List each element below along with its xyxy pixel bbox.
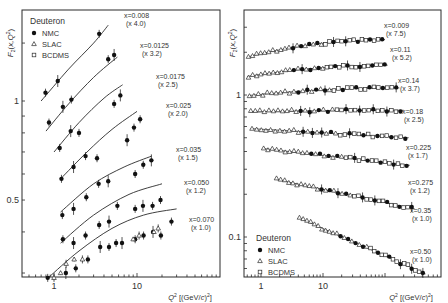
slac-point <box>296 66 301 70</box>
bcdms-point <box>372 85 376 89</box>
slac-point <box>297 215 302 219</box>
nmc-point <box>106 57 110 61</box>
nmc-point <box>112 102 116 106</box>
bcdms-point <box>328 40 332 44</box>
bcdms-point <box>363 88 367 92</box>
series-scale-factor: (x 2.5) <box>158 81 178 89</box>
series-label: x=0.008 <box>124 12 149 19</box>
nmc-point <box>83 154 87 158</box>
nmc-point <box>112 53 116 57</box>
bcdms-point <box>417 270 421 274</box>
bcdms-point <box>366 64 370 68</box>
bcdms-point <box>348 38 352 42</box>
nmc-point <box>385 200 389 204</box>
bcdms-point <box>396 162 400 166</box>
bcdms-point <box>365 198 369 202</box>
bcdms-point <box>362 65 366 69</box>
nmc-point <box>301 130 305 134</box>
slac-point <box>309 89 314 93</box>
bcdms-point <box>385 134 389 138</box>
nmc-point <box>371 107 375 111</box>
nmc-point <box>60 213 64 217</box>
bcdms-point <box>340 108 344 112</box>
slac-point <box>311 184 316 188</box>
nmc-point <box>398 262 402 266</box>
nmc-point <box>335 154 339 158</box>
series-x=0.225 <box>250 126 409 141</box>
nmc-point <box>409 267 413 271</box>
nmc-point <box>32 31 36 35</box>
nmc-point <box>382 62 386 66</box>
series-label: x=0.275 <box>408 179 433 186</box>
bcdms-point <box>357 194 361 198</box>
x-axis-label: Q2 [(GeV/c)2] <box>389 292 433 302</box>
figure: 11010.5Q2 [(GeV/c)2]F2(x,Q2)x=0.008(x 4.… <box>0 0 448 303</box>
slac-point <box>265 90 270 94</box>
nmc-point <box>74 266 78 270</box>
slac-point <box>267 108 272 112</box>
bcdms-point <box>344 156 348 160</box>
series-label: x=0.0125 <box>140 42 169 49</box>
nmc-point <box>343 39 347 43</box>
slac-point <box>287 128 292 132</box>
bcdms-point <box>367 108 371 112</box>
bcdms-point <box>352 132 356 136</box>
bcdms-point <box>343 133 347 137</box>
nmc-point <box>47 120 51 124</box>
slac-point <box>80 257 85 261</box>
nmc-point <box>96 182 100 186</box>
slac-point <box>331 155 336 159</box>
slac-point <box>333 131 338 135</box>
series-x=0.11 <box>246 60 387 79</box>
series-x=0.275 <box>261 146 409 170</box>
nmc-point <box>84 195 88 199</box>
nmc-point <box>141 233 145 237</box>
bcdms-point <box>349 109 353 113</box>
nmc-point <box>97 32 101 36</box>
nmc-point <box>375 134 379 138</box>
series-x=0.0175 <box>54 85 123 152</box>
nmc-point <box>150 204 154 208</box>
slac-point <box>330 107 335 111</box>
fit-curve <box>61 184 162 243</box>
slac-point <box>292 89 297 93</box>
nmc-point <box>376 251 380 255</box>
legend-entry-nmc: NMC <box>268 246 286 255</box>
fit-curve <box>61 111 137 178</box>
nmc-point <box>380 37 384 41</box>
nmc-point <box>346 237 350 241</box>
slac-point <box>287 67 292 71</box>
series-label: x=0.0175 <box>156 73 185 80</box>
bcdms-point <box>406 263 410 267</box>
nmc-point <box>300 67 304 71</box>
series-x=0.009 <box>246 36 385 58</box>
nmc-point <box>318 151 322 155</box>
slac-point <box>264 128 269 132</box>
bcdms-point <box>366 132 370 136</box>
nmc-point <box>333 64 337 68</box>
slac-point <box>312 66 317 70</box>
bcdms-point <box>335 108 339 112</box>
legend-title: Deuteron <box>256 233 291 243</box>
x-tick-label: 10 <box>132 281 142 291</box>
nmc-point <box>115 204 119 208</box>
nmc-point <box>421 271 425 275</box>
series-label: x=0.009 <box>384 22 409 29</box>
slac-point <box>282 129 287 133</box>
series-label: x=0.11 <box>390 46 411 53</box>
nmc-point <box>98 245 102 249</box>
nmc-point <box>315 41 319 45</box>
bcdms-point <box>388 162 392 166</box>
bcdms-point <box>364 38 368 42</box>
slac-point <box>305 129 310 133</box>
nmc-point <box>141 204 145 208</box>
nmc-point <box>69 97 73 101</box>
slac-point <box>296 149 301 153</box>
series-label: x=0.225 <box>406 144 431 151</box>
nmc-point <box>370 63 374 67</box>
nmc-point <box>71 241 75 245</box>
nmc-point <box>341 88 345 92</box>
nmc-point <box>133 172 137 176</box>
series-label: x=0.025 <box>166 102 191 109</box>
series-label: x=0.50 <box>410 248 431 255</box>
